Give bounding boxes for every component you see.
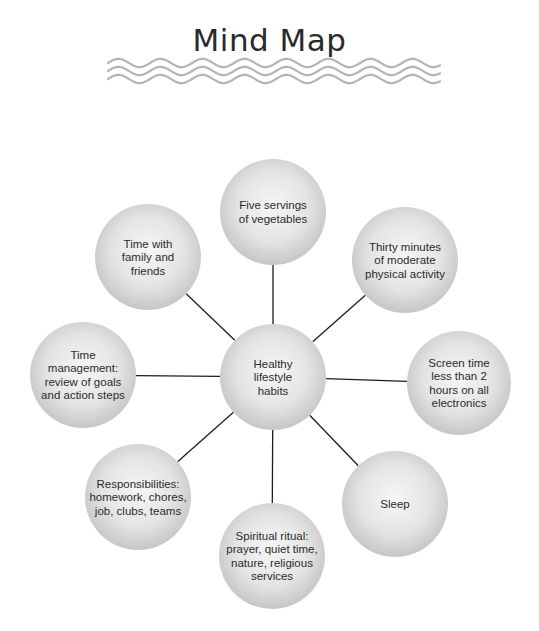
- connector-time-management: [136, 376, 220, 377]
- bubble-label-line: Five servings: [239, 199, 307, 211]
- bubble-label-line: review of goals: [45, 376, 122, 388]
- bubble-label-line: less than 2: [431, 370, 487, 382]
- bubble-label-line: electronics: [432, 397, 487, 409]
- bubble-label-line: physical activity: [365, 268, 445, 280]
- node-spiritual-ritual: Spiritual ritual:prayer, quiet time,natu…: [219, 503, 325, 609]
- bubble-label-line: prayer, quiet time,: [226, 543, 317, 555]
- bubble-label-line: job, clubs, teams: [94, 505, 182, 517]
- bubble-label-line: Thirty minutes: [369, 241, 441, 253]
- bubble-label-line: habits: [258, 385, 289, 397]
- bubble-label-line: Time with: [124, 238, 173, 250]
- connector-thirty-minutes: [313, 295, 366, 342]
- node-five-servings: Five servingsof vegetables: [220, 159, 326, 265]
- node-time-with-family: Time withfamily andfriends: [95, 204, 201, 310]
- bubble-label-line: lifestyle: [254, 371, 292, 383]
- mind-map-diagram: Five servingsof vegetablesThirty minutes…: [0, 0, 539, 631]
- node-thirty-minutes: Thirty minutesof moderatephysical activi…: [352, 207, 458, 313]
- bubble-label-line: Healthy: [254, 358, 293, 370]
- connector-time-with-family: [186, 294, 235, 341]
- node-time-management: Timemanagement:review of goalsand action…: [30, 322, 136, 428]
- node-sleep: Sleep: [342, 451, 448, 557]
- connector-responsibilities: [178, 412, 234, 462]
- bubble-label-line: Sleep: [380, 498, 409, 510]
- bubble-label-line: Time: [70, 349, 95, 361]
- bubbles: Five servingsof vegetablesThirty minutes…: [30, 159, 511, 609]
- bubble-label-line: of vegetables: [239, 213, 308, 225]
- bubble-label-line: of moderate: [374, 254, 435, 266]
- wave-line: [108, 59, 440, 67]
- connector-screen-time: [326, 379, 407, 382]
- node-responsibilities: Responsibilities:homework, chores,job, c…: [85, 444, 191, 550]
- bubble-label-line: hours on all: [429, 384, 488, 396]
- bubble-label-line: family and: [122, 251, 174, 263]
- bubble-label-line: homework, chores,: [89, 491, 186, 503]
- center-node-healthy-lifestyle-habits: Healthylifestylehabits: [220, 324, 326, 430]
- bubble-label-line: Screen time: [428, 357, 489, 369]
- bubble-label-line: friends: [131, 265, 166, 277]
- bubble-label-line: nature, religious: [231, 557, 313, 569]
- bubble-label-line: Responsibilities:: [96, 478, 179, 490]
- node-screen-time: Screen timeless than 2hours on allelectr…: [407, 331, 511, 435]
- connector-sleep: [310, 415, 359, 466]
- bubble-label-line: Spiritual ritual:: [236, 530, 309, 542]
- bubble-label-line: and action steps: [41, 389, 125, 401]
- bubble-label-line: services: [251, 570, 293, 582]
- title-wave-decoration: [108, 59, 440, 83]
- bubble-label-line: management:: [48, 362, 118, 374]
